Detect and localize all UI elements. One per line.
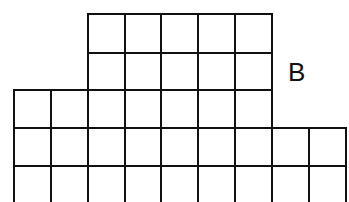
grid-diagram [0,0,349,202]
bottom-rows [14,128,346,202]
middle-row [14,90,272,128]
figure-label: B [288,59,305,85]
top-block [88,14,272,90]
